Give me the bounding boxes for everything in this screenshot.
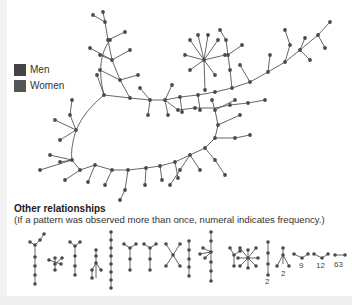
freq-label-12: 12 (316, 261, 325, 270)
main-network-edges (40, 12, 330, 200)
freq-label-2b: 2 (281, 269, 286, 278)
freq-label-63: 63 (334, 260, 343, 269)
other-relationships-subtitle: (If a pattern was observed more than onc… (14, 214, 325, 225)
other-relationships-title: Other relationships (14, 203, 106, 214)
freq-label-2a: 2 (265, 277, 270, 286)
frequency-labels: 2 2 9 12 63 (265, 260, 343, 286)
other-patterns-nodes (28, 230, 347, 290)
freq-label-9: 9 (299, 261, 304, 270)
network-diagram: 2 2 9 12 63 (0, 0, 352, 305)
